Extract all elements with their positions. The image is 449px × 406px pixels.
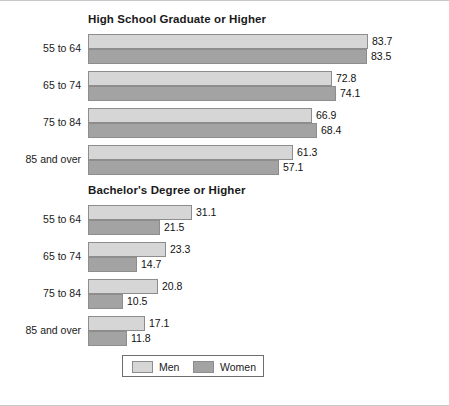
bar-rect-women: [88, 294, 123, 309]
panel-title-bachelors: Bachelor's Degree or Higher: [88, 184, 246, 196]
plot-area-high-school: 55 to 6483.783.565 to 7472.874.175 to 84…: [0, 33, 449, 181]
bar-rect-men: [88, 34, 368, 49]
bar-group: 85 and over17.111.8: [0, 315, 449, 352]
category-label: 55 to 64: [0, 213, 81, 225]
bar-group: 55 to 6483.783.5: [0, 33, 449, 70]
bar-rect-men: [88, 242, 166, 257]
legend: Men Women: [122, 355, 264, 377]
bar-men: 61.3: [88, 145, 293, 160]
bar-women: 21.5: [88, 220, 160, 235]
bar-group: 65 to 7423.314.7: [0, 241, 449, 278]
bar-men: 20.8: [88, 279, 158, 294]
bar-men: 66.9: [88, 108, 312, 123]
category-label: 65 to 74: [0, 250, 81, 262]
legend-label-women: Women: [220, 361, 256, 373]
bar-value-label: 68.4: [321, 124, 341, 136]
panel-title-high-school: High School Graduate or Higher: [88, 13, 266, 25]
category-label: 85 and over: [0, 153, 81, 165]
category-label: 55 to 64: [0, 42, 81, 54]
bar-rect-women: [88, 123, 317, 138]
bar-women: 74.1: [88, 86, 336, 101]
bar-group: 55 to 6431.121.5: [0, 204, 449, 241]
bar-value-label: 74.1: [340, 87, 360, 99]
category-label: 65 to 74: [0, 79, 81, 91]
legend-swatch-men-icon: [132, 361, 153, 373]
bar-rect-men: [88, 145, 293, 160]
bar-value-label: 61.3: [297, 146, 317, 158]
bar-value-label: 83.5: [371, 50, 391, 62]
bar-group: 75 to 8420.810.5: [0, 278, 449, 315]
bar-women: 14.7: [88, 257, 137, 272]
bar-value-label: 10.5: [127, 295, 147, 307]
bar-value-label: 72.8: [336, 72, 356, 84]
chart-figure: High School Graduate or Higher 55 to 648…: [0, 0, 449, 406]
bar-group: 85 and over61.357.1: [0, 144, 449, 181]
category-label: 75 to 84: [0, 116, 81, 128]
bar-value-label: 31.1: [196, 206, 216, 218]
bar-men: 83.7: [88, 34, 368, 49]
bar-rect-women: [88, 49, 367, 64]
bar-rect-women: [88, 160, 279, 175]
bar-value-label: 23.3: [170, 243, 190, 255]
legend-item-men: Men: [132, 360, 179, 373]
bar-men: 17.1: [88, 316, 145, 331]
plot-area-bachelors: 55 to 6431.121.565 to 7423.314.775 to 84…: [0, 204, 449, 352]
bar-value-label: 14.7: [141, 258, 161, 270]
bar-value-label: 66.9: [316, 109, 336, 121]
bar-value-label: 17.1: [149, 317, 169, 329]
bar-rect-men: [88, 316, 145, 331]
bar-rect-men: [88, 279, 158, 294]
bar-women: 83.5: [88, 49, 367, 64]
bar-value-label: 20.8: [162, 280, 182, 292]
bar-value-label: 57.1: [283, 161, 303, 173]
bar-women: 57.1: [88, 160, 279, 175]
bar-group: 75 to 8466.968.4: [0, 107, 449, 144]
bar-men: 31.1: [88, 205, 192, 220]
bar-rect-men: [88, 205, 192, 220]
bar-group: 65 to 7472.874.1: [0, 70, 449, 107]
bar-value-label: 21.5: [164, 221, 184, 233]
legend-swatch-women-icon: [193, 361, 214, 373]
bar-rect-women: [88, 220, 160, 235]
bar-women: 68.4: [88, 123, 317, 138]
bar-men: 23.3: [88, 242, 166, 257]
bar-rect-men: [88, 108, 312, 123]
category-label: 85 and over: [0, 324, 81, 336]
category-label: 75 to 84: [0, 287, 81, 299]
bar-women: 11.8: [88, 331, 127, 346]
bar-women: 10.5: [88, 294, 123, 309]
legend-label-men: Men: [159, 361, 179, 373]
bar-rect-men: [88, 71, 332, 86]
bar-value-label: 83.7: [372, 35, 392, 47]
bar-men: 72.8: [88, 71, 332, 86]
bar-value-label: 11.8: [131, 332, 151, 344]
legend-item-women: Women: [193, 360, 256, 373]
bar-rect-women: [88, 257, 137, 272]
bar-rect-women: [88, 86, 336, 101]
bar-rect-women: [88, 331, 127, 346]
